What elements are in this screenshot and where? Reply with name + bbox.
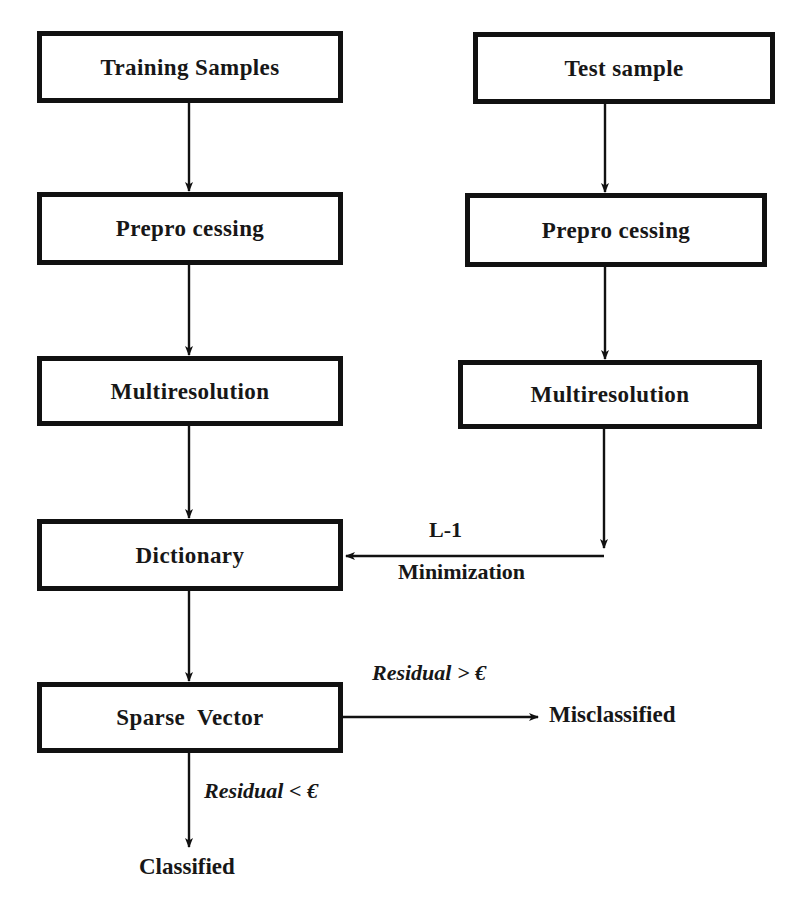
edge-label-residual-less: Residual < € — [204, 780, 318, 802]
node-test-sample[interactable]: Test sample — [473, 32, 775, 104]
node-preprocessing-right-label: Prepro cessing — [542, 219, 691, 242]
node-sparse-vector-label: Sparse Vector — [116, 706, 263, 729]
terminal-classified: Classified — [139, 855, 235, 878]
flowchart-canvas: Training Samples Prepro cessing Multires… — [0, 0, 798, 897]
node-multiresolution-right[interactable]: Multiresolution — [458, 360, 762, 429]
node-dictionary[interactable]: Dictionary — [37, 519, 343, 591]
node-sparse-vector[interactable]: Sparse Vector — [37, 682, 343, 753]
node-training-samples[interactable]: Training Samples — [37, 31, 343, 103]
node-dictionary-label: Dictionary — [136, 544, 245, 567]
node-multiresolution-left[interactable]: Multiresolution — [37, 356, 343, 426]
terminal-misclassified: Misclassified — [549, 703, 676, 726]
node-training-samples-label: Training Samples — [100, 56, 279, 79]
connector-layer — [0, 0, 798, 897]
edge-label-minimization: Minimization — [398, 561, 525, 583]
node-preprocessing-left[interactable]: Prepro cessing — [37, 192, 343, 265]
node-multiresolution-left-label: Multiresolution — [111, 380, 270, 403]
node-test-sample-label: Test sample — [564, 57, 683, 80]
edge-label-l1: L-1 — [429, 519, 462, 541]
node-multiresolution-right-label: Multiresolution — [531, 383, 690, 406]
node-preprocessing-left-label: Prepro cessing — [116, 217, 265, 240]
edge-label-residual-greater: Residual > € — [372, 662, 486, 684]
node-preprocessing-right[interactable]: Prepro cessing — [465, 193, 767, 267]
